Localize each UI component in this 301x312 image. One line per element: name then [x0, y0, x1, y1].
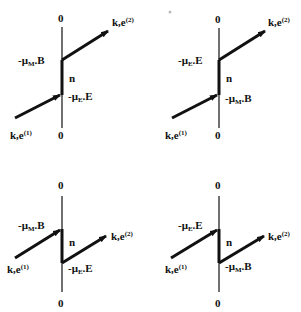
incident-label: k,e(1) — [7, 263, 30, 275]
incident-label: k,e(1) — [10, 129, 33, 141]
incident-arrow — [171, 230, 217, 258]
upper-label: -μM.B — [18, 54, 45, 68]
panel-bottom-right: 0 -μE.E n -μM.B k,e(1) k,e(2) 0 — [165, 179, 291, 309]
outgoing-label: k,e(2) — [112, 16, 135, 28]
top-zero: 0 — [58, 12, 64, 24]
incident-arrow — [172, 95, 217, 118]
bottom-zero: 0 — [215, 129, 221, 141]
upper-label: -μE.E — [178, 54, 203, 68]
top-zero: 0 — [58, 179, 64, 191]
speck — [169, 11, 172, 14]
lower-label: -μE.E — [68, 262, 93, 276]
top-zero: 0 — [215, 179, 221, 191]
upper-label: -μM.B — [18, 219, 45, 233]
outgoing-arrow — [62, 31, 108, 60]
incident-label: k,e(1) — [165, 129, 188, 141]
bottom-zero: 0 — [215, 297, 221, 309]
bottom-zero: 0 — [58, 129, 64, 141]
panel-top-left: 0 -μM.B n -μE.E k,e(1) k,e(2) 0 — [10, 12, 135, 141]
normal-label: n — [69, 236, 75, 248]
lower-label: -μM.B — [225, 260, 252, 274]
incident-arrow — [15, 95, 60, 118]
panel-bottom-left: 0 -μM.B n -μE.E k,e(1) k,e(2) 0 — [7, 179, 134, 309]
outgoing-label: k,e(2) — [111, 230, 134, 242]
bottom-zero: 0 — [58, 297, 64, 309]
panel-top-right: 0 -μE.E n -μM.B k,e(1) k,e(2) 0 — [165, 11, 291, 142]
incident-label: k,e(1) — [165, 263, 188, 275]
lower-label: -μE.E — [68, 90, 93, 104]
outgoing-arrow — [219, 31, 265, 60]
outgoing-label: k,e(2) — [268, 230, 291, 242]
diagram-canvas: 0 -μM.B n -μE.E k,e(1) k,e(2) 0 0 -μE.E … — [0, 0, 301, 312]
normal-label: n — [226, 72, 232, 84]
lower-label: -μM.B — [225, 92, 252, 106]
normal-label: n — [226, 236, 232, 248]
top-zero: 0 — [215, 13, 221, 25]
upper-label: -μE.E — [178, 219, 203, 233]
normal-label: n — [69, 72, 75, 84]
outgoing-label: k,e(2) — [268, 16, 291, 28]
incident-arrow — [15, 230, 60, 258]
